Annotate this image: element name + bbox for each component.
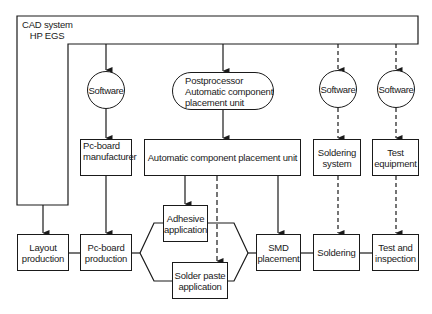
smd-placement-box[interactable]: SMD placement bbox=[256, 234, 301, 271]
postprocessor-node[interactable]: Postprocessor Automatic component placem… bbox=[172, 72, 274, 110]
soldering-box[interactable]: Soldering bbox=[313, 234, 360, 271]
pcb-manufacturer-box[interactable]: Pc-board manufacturer bbox=[80, 139, 132, 176]
software-node-pcb[interactable]: Software bbox=[87, 71, 125, 109]
test-inspection-box[interactable]: Test and inspection bbox=[372, 234, 419, 271]
soldering-system-box[interactable]: Soldering system bbox=[313, 139, 361, 176]
cad-system-label: CAD system HP EGS bbox=[22, 19, 72, 41]
pcb-production-box[interactable]: Pc-board production bbox=[80, 234, 132, 271]
auto-placement-unit-box[interactable]: Automatic component placement unit bbox=[144, 139, 301, 176]
adhesive-application-box[interactable]: Adhesive application bbox=[163, 205, 208, 242]
software-node-soldering[interactable]: Software bbox=[319, 70, 357, 108]
layout-production-box[interactable]: Layout production bbox=[17, 234, 69, 271]
solder-paste-application-box[interactable]: Solder paste application bbox=[172, 262, 228, 299]
test-equipment-box[interactable]: Test equipment bbox=[372, 139, 419, 176]
software-node-test[interactable]: Software bbox=[377, 70, 415, 108]
